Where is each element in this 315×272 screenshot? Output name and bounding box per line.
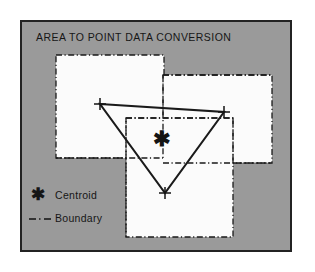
- centroid-asterisk-icon: ✱: [153, 127, 171, 150]
- figure-root: AREA TO POINT DATA CONVERSION: [0, 0, 315, 272]
- legend-centroid-asterisk-icon: ✱: [31, 185, 45, 204]
- legend: ✱ Centroid Boundary: [29, 185, 103, 224]
- diagram-canvas: ✱ ✱ Centroid Boundary: [0, 0, 315, 272]
- legend-boundary-label: Boundary: [55, 212, 103, 224]
- area-lower-center: [126, 118, 233, 237]
- legend-centroid-label: Centroid: [55, 189, 97, 201]
